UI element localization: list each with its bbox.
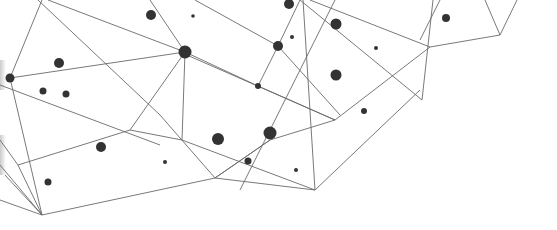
network-node-dot [273, 41, 283, 51]
connection-line [195, 0, 278, 46]
connection-line [10, 0, 42, 78]
network-node-dot [146, 10, 156, 20]
connection-line [48, 0, 185, 52]
network-node-dot [361, 108, 367, 114]
network-node-dot [54, 58, 64, 68]
network-node-dot [442, 14, 450, 22]
network-node-dot [331, 19, 342, 30]
network-node-dot [294, 168, 298, 172]
network-node-dot [6, 74, 15, 83]
connection-lines [0, 0, 517, 215]
connection-line [270, 120, 335, 140]
connection-line [240, 0, 335, 190]
connection-line [300, 0, 422, 100]
network-node-dot [290, 35, 294, 39]
network-node-dot [191, 14, 195, 18]
network-node-dot [331, 70, 342, 81]
connection-line [278, 46, 340, 115]
connection-line [303, 0, 315, 190]
network-node-dot [284, 0, 294, 9]
network-node-dot [96, 142, 106, 152]
network-node-dot [45, 179, 52, 186]
connection-line [422, 0, 433, 100]
connection-line [185, 52, 258, 86]
network-node-dot [40, 88, 47, 95]
network-graphic [0, 0, 557, 230]
connection-line [5, 175, 42, 215]
network-node-dot [212, 133, 224, 145]
connection-line [258, 46, 278, 86]
network-node-dot [255, 83, 261, 89]
network-node-dot [179, 46, 192, 59]
connection-line [150, 0, 185, 52]
network-node-dot [63, 91, 70, 98]
connection-line [0, 140, 18, 165]
network-node-dot [163, 160, 167, 164]
network-node-dot [374, 46, 378, 50]
connection-line [335, 47, 430, 120]
connection-line [500, 0, 517, 35]
network-illustration [0, 0, 557, 230]
connection-line [130, 52, 185, 130]
connection-line [38, 0, 160, 115]
connection-line [18, 130, 130, 165]
connection-line [182, 52, 185, 140]
connection-line [430, 35, 500, 47]
connection-line [160, 115, 215, 178]
connection-line [182, 140, 315, 190]
connection-line [420, 0, 440, 40]
network-node-dot [245, 158, 252, 165]
connection-line [42, 178, 215, 215]
connection-line [485, 0, 500, 35]
network-node-dot [264, 127, 277, 140]
